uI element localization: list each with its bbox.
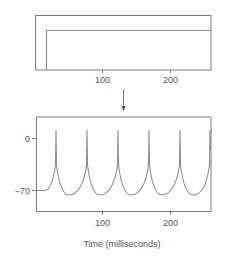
membrane-potential-trace [37, 130, 211, 195]
bottom-tick-label-100: 100 [95, 218, 110, 228]
y-tick-label-neg70: −70 [15, 186, 30, 196]
y-tick-label-0: 0 [25, 134, 30, 144]
top-tick-label-200: 200 [163, 75, 178, 85]
x-axis-label: Time (milliseconds) [83, 239, 160, 249]
top-tick-label-100: 100 [95, 75, 110, 85]
stimulus-panel: 100 200 [36, 16, 212, 86]
down-arrow-icon [121, 89, 125, 111]
voltage-panel: 0 −70 100 200 Time (milliseconds) [15, 117, 211, 249]
stimulus-frame [36, 16, 212, 71]
voltage-frame [37, 117, 212, 212]
figure: 100 200 0 −70 100 200 Time (milliseconds… [0, 0, 226, 257]
stimulus-step-trace [47, 31, 212, 71]
bottom-tick-label-200: 200 [163, 218, 178, 228]
